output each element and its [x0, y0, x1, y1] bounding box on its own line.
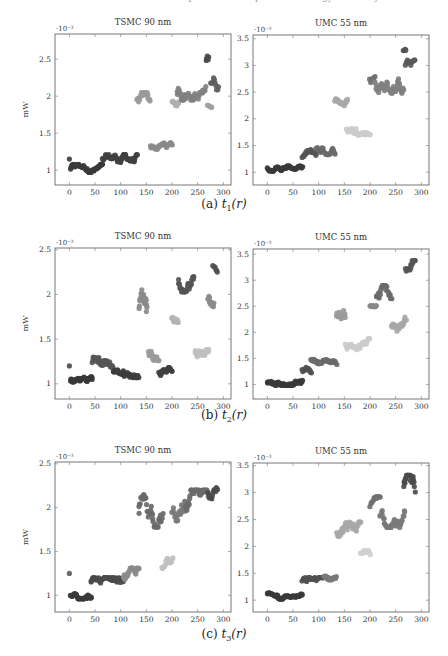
- y-tick-label: 2.5: [237, 302, 249, 311]
- data-point: [136, 566, 141, 571]
- data-point: [135, 152, 140, 157]
- data-point: [150, 512, 155, 517]
- y-tick-label: 2: [46, 92, 51, 101]
- y-tick-label: 1.5: [39, 129, 51, 138]
- caption-argument: (r): [232, 197, 247, 211]
- x-tick-label: 200: [363, 615, 378, 624]
- y-tick-label: 1: [244, 596, 249, 605]
- y-axis-label: mW: [21, 315, 30, 332]
- y-tick-label: 2: [46, 503, 51, 512]
- data-point: [209, 105, 214, 110]
- data-point: [156, 524, 161, 529]
- subplot-title: TSMC 90 nm: [115, 445, 171, 455]
- y-tick-label: 2: [244, 114, 249, 123]
- y-tick-label: 1: [46, 379, 51, 388]
- data-point: [144, 305, 149, 310]
- data-point: [216, 84, 221, 89]
- x-tick-label: 0: [265, 188, 270, 197]
- x-tick-label: 200: [165, 188, 180, 197]
- scatter-points: [265, 258, 418, 388]
- data-point: [404, 318, 409, 323]
- x-tick-label: 100: [114, 188, 129, 197]
- y-tick-label: 2.5: [39, 55, 51, 64]
- data-point: [67, 156, 72, 161]
- y-tick-label: 3: [244, 276, 249, 285]
- x-tick-label: 100: [312, 615, 327, 624]
- data-point: [300, 592, 305, 597]
- y-tick-label: 2.5: [39, 459, 51, 468]
- scatter-points: [265, 47, 418, 174]
- data-point: [378, 494, 383, 499]
- x-tick-label: 150: [337, 188, 352, 197]
- data-point: [215, 270, 220, 275]
- data-point: [401, 87, 406, 92]
- data-point: [187, 502, 192, 507]
- y-tick-label: 1: [46, 591, 51, 600]
- subplot-a-left: TSMC 90 nm·10⁻³mW05010015020025030011.52…: [21, 17, 231, 197]
- subplot-b-left: TSMC 90 nm·10⁻³mW05010015020025030011.52…: [21, 231, 231, 411]
- data-point: [374, 303, 379, 308]
- x-tick-label: 250: [190, 188, 205, 197]
- y-multiplier-label: ·10⁻³: [56, 453, 74, 461]
- data-point: [144, 298, 149, 303]
- x-tick-label: 200: [363, 188, 378, 197]
- data-point: [67, 571, 72, 576]
- data-point: [149, 504, 154, 509]
- x-tick-label: 100: [114, 615, 129, 624]
- data-point: [411, 474, 416, 479]
- data-point: [334, 574, 339, 579]
- data-point: [333, 152, 338, 157]
- x-tick-label: 300: [216, 615, 231, 624]
- subplot-title: UMC 55 nm: [315, 18, 367, 28]
- y-tick-label: 1.5: [237, 141, 249, 150]
- data-point: [215, 487, 220, 492]
- x-tick-label: 50: [90, 188, 100, 197]
- data-point: [367, 336, 372, 341]
- subplot-title: TSMC 90 nm: [115, 17, 171, 27]
- x-tick-label: 50: [90, 615, 100, 624]
- y-tick-label: 2: [244, 328, 249, 337]
- data-point: [309, 370, 314, 375]
- y-tick-label: 1: [46, 166, 51, 175]
- y-tick-label: 3: [244, 488, 249, 497]
- data-point: [367, 132, 372, 137]
- y-axis-label: mW: [21, 101, 30, 118]
- plot-frame: [55, 34, 231, 185]
- caption-a: (a) t1(r): [0, 197, 448, 213]
- subplot-c-right: UMC 55 nm·10⁻³05010015020025030011.522.5…: [237, 446, 429, 624]
- x-tick-label: 0: [67, 615, 72, 624]
- data-point: [300, 164, 305, 169]
- scatter-points: [67, 54, 221, 175]
- y-tick-label: 1.5: [39, 547, 51, 556]
- subplot-title: TSMC 90 nm: [115, 231, 171, 241]
- data-point: [358, 520, 363, 525]
- subplot-title: UMC 55 nm: [315, 446, 367, 456]
- plot-frame: [55, 462, 231, 612]
- data-point: [138, 501, 143, 506]
- y-tick-label: 2: [244, 542, 249, 551]
- data-point: [170, 142, 175, 147]
- data-point: [203, 84, 208, 89]
- data-point: [412, 484, 417, 489]
- data-point: [67, 363, 72, 368]
- subplot-a-right: UMC 55 nm·10⁻³05010015020025030011.522.5…: [237, 18, 429, 197]
- data-point: [345, 97, 350, 102]
- y-multiplier-label: ·10⁻³: [254, 26, 272, 34]
- x-tick-label: 150: [337, 615, 352, 624]
- y-tick-label: 2.5: [237, 515, 249, 524]
- y-axis-label: mW: [21, 528, 30, 545]
- y-tick-label: 1.5: [39, 335, 51, 344]
- data-point: [143, 495, 148, 500]
- x-tick-label: 200: [165, 615, 180, 624]
- x-tick-label: 250: [388, 188, 403, 197]
- y-tick-label: 2.5: [39, 245, 51, 254]
- caption-label: (a): [201, 197, 218, 211]
- caption-argument: (r): [231, 627, 246, 641]
- data-point: [413, 489, 418, 494]
- data-point: [191, 274, 196, 279]
- data-point: [343, 315, 348, 320]
- y-tick-label: 2.5: [237, 88, 249, 97]
- data-point: [156, 358, 161, 363]
- y-tick-label: 1: [244, 168, 249, 177]
- y-tick-label: 3.5: [237, 250, 249, 259]
